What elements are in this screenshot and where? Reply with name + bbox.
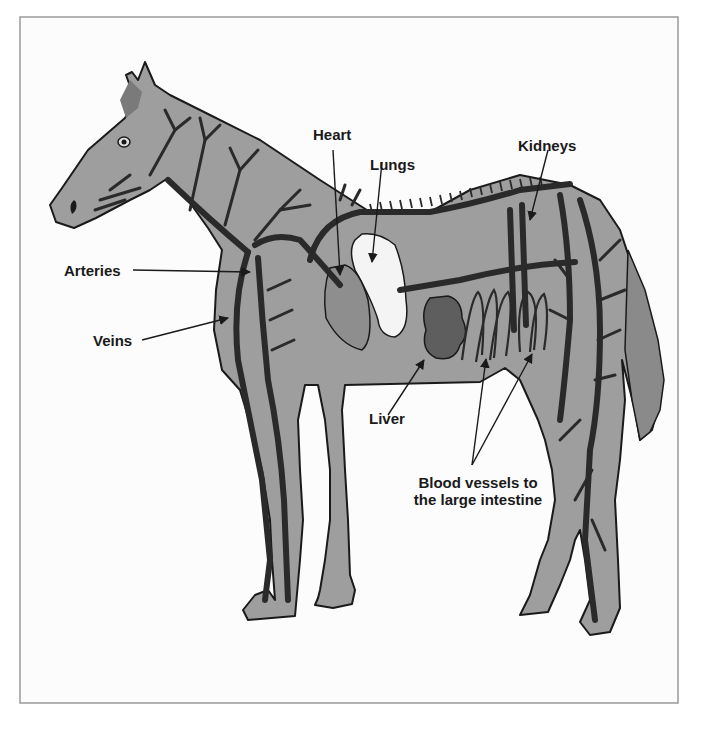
horse-circulatory-diagram (0, 0, 724, 741)
label-heart: Heart (313, 126, 351, 143)
label-blood-vessels-large-intestine: Blood vessels to the large intestine (393, 474, 563, 508)
label-lungs: Lungs (370, 156, 415, 173)
label-blood-vessels-line1: Blood vessels to (418, 474, 537, 491)
label-blood-vessels-line2: the large intestine (414, 491, 542, 508)
label-kidneys: Kidneys (518, 137, 576, 154)
label-veins: Veins (93, 332, 132, 349)
label-arteries: Arteries (64, 262, 121, 279)
label-liver: Liver (369, 410, 405, 427)
